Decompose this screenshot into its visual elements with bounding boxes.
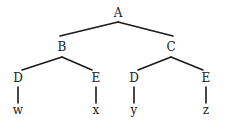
tree-node-e-right: E: [202, 72, 211, 84]
edge-b-d: [22, 57, 62, 70]
parse-tree-figure: ABCDEDEwxyz: [0, 0, 231, 129]
tree-node-d-right: D: [129, 72, 139, 84]
tree-leaf-z: z: [203, 104, 209, 116]
tree-node-c: C: [166, 41, 175, 53]
tree-leaf-y: y: [131, 104, 138, 116]
edge-a-c: [118, 22, 173, 36]
edge-c-e: [171, 57, 203, 70]
edge-a-b: [60, 22, 118, 36]
tree-node-b: B: [58, 41, 67, 53]
edge-b-e: [62, 57, 92, 70]
tree-leaf-x: x: [93, 104, 100, 116]
tree-leaf-w: w: [13, 104, 23, 116]
tree-node-e-left: E: [92, 72, 101, 84]
tree-node-d-left: D: [13, 72, 23, 84]
edge-c-d: [138, 57, 171, 70]
tree-node-a-root: A: [114, 7, 123, 19]
